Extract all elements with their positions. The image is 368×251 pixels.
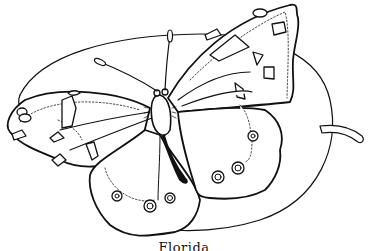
coloring-page: Florida <box>0 0 368 251</box>
right-forewing <box>168 5 298 112</box>
right-hindwing <box>178 105 282 199</box>
butterfly-illustration <box>0 0 368 251</box>
caption: Florida <box>0 240 368 251</box>
